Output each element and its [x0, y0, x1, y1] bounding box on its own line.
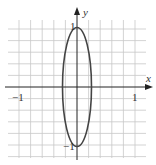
y-axis-label: y	[82, 6, 88, 18]
x-tick-pos-one: 1	[132, 91, 138, 103]
y-tick-neg-one: −1	[63, 140, 75, 152]
x-tick-neg-one: −1	[12, 91, 24, 103]
y-tick-pos-one: 1	[70, 20, 76, 32]
axes	[5, 7, 153, 160]
x-axis-label: x	[145, 72, 151, 84]
x-axis-arrow-icon	[145, 84, 153, 90]
ellipse-plot: x y −1 1 1 −1	[0, 0, 156, 165]
y-axis-arrow-icon	[74, 7, 80, 15]
